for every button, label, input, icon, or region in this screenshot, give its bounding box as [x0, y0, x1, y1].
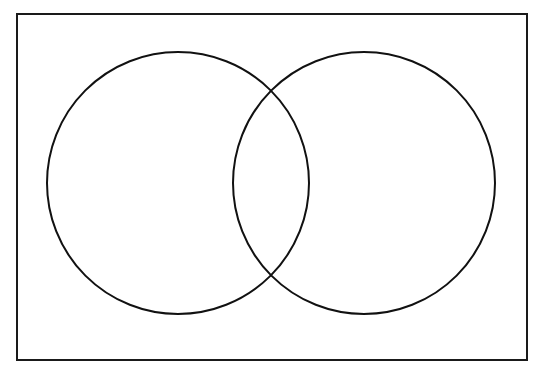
venn-frame — [17, 14, 527, 360]
venn-diagram — [0, 0, 543, 372]
